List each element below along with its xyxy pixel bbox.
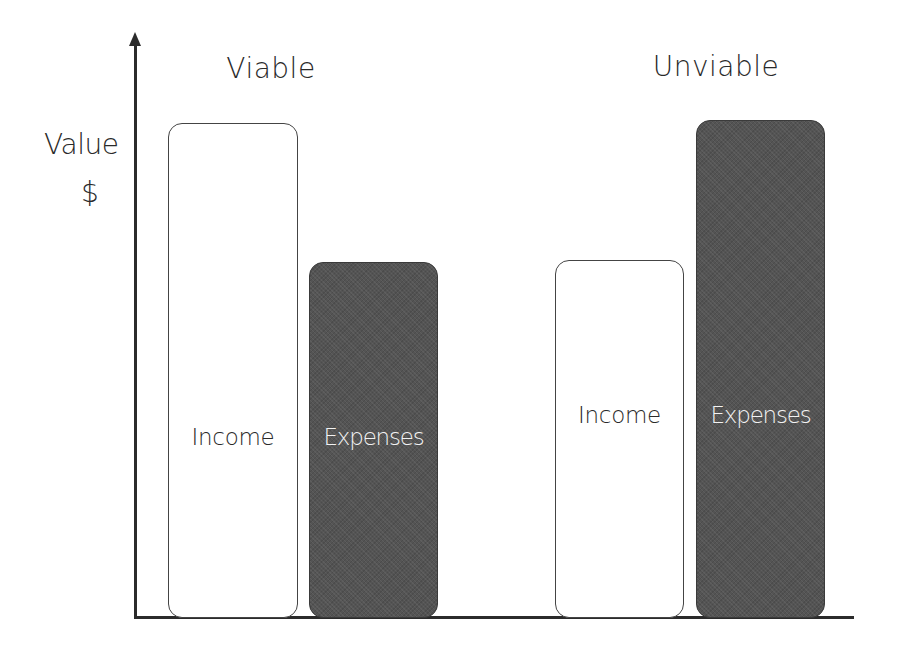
bar-viable-income: Income	[168, 123, 298, 618]
bar-viable-expenses: Expenses	[309, 262, 438, 618]
group-title-viable: Viable	[151, 52, 391, 85]
bar-label: Income	[192, 424, 275, 450]
bar-unviable-income: Income	[555, 260, 684, 618]
y-axis-unit: $	[78, 176, 102, 209]
group-title-unviable: Unviable	[596, 50, 836, 83]
bar-label: Expenses	[711, 402, 811, 428]
bar-unviable-expenses: Expenses	[696, 120, 825, 618]
y-axis-label: Value	[44, 128, 136, 161]
bar-label: Income	[578, 402, 661, 428]
bar-label: Expenses	[324, 424, 424, 450]
